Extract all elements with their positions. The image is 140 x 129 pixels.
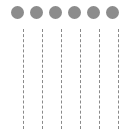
node-circle-2 <box>30 6 43 19</box>
node-circle-5 <box>87 6 100 19</box>
dashed-lifeline-2 <box>42 29 43 129</box>
node-circle-6 <box>106 6 119 19</box>
node-circle-1 <box>11 6 24 19</box>
dashed-lifeline-5 <box>99 29 100 129</box>
dashed-lifeline-1 <box>23 29 24 129</box>
dashed-lifeline-4 <box>80 29 81 129</box>
dashed-lifeline-3 <box>61 29 62 129</box>
dashed-lifeline-6 <box>118 29 119 129</box>
node-circle-4 <box>68 6 81 19</box>
node-circle-3 <box>49 6 62 19</box>
